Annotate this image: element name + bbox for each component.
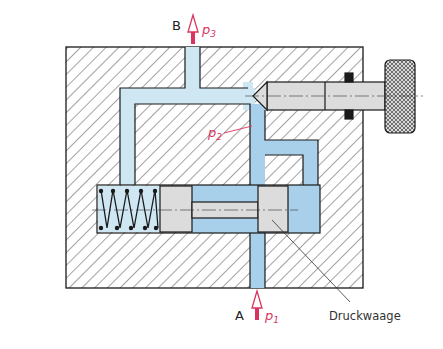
druckwaage-label: Druckwaage <box>329 309 401 323</box>
p3-label: p3 <box>201 22 216 39</box>
p1-label: p1 <box>264 308 279 325</box>
port-b-label: B <box>172 18 181 33</box>
valve-diagram: B p3 p2 A p1 Druckwaage <box>0 0 443 349</box>
port-a-label: A <box>235 308 244 323</box>
port-a-arrow-icon <box>252 291 262 320</box>
adjustment-knob[interactable] <box>385 60 415 133</box>
port-b-arrow-icon <box>188 15 198 44</box>
